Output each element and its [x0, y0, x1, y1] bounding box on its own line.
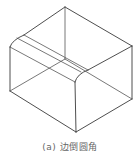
front-vertical-edge [75, 82, 76, 132]
figure-caption: (a) 边倒圆角 [0, 141, 140, 151]
fillet-box-figure: (a) 边倒圆角 [0, 0, 140, 151]
left-bottom-edge [10, 91, 76, 132]
back-bottom-left-edge [10, 59, 65, 91]
box-wireframe [0, 0, 140, 151]
top-front-edge [88, 46, 132, 70]
top-right-edge [65, 7, 132, 46]
top-left-edge [24, 7, 65, 35]
fillet-tangent-line-top [24, 35, 88, 70]
fillet-tangent-line-mid [17, 38, 81, 72]
right-bottom-edge [76, 99, 132, 132]
